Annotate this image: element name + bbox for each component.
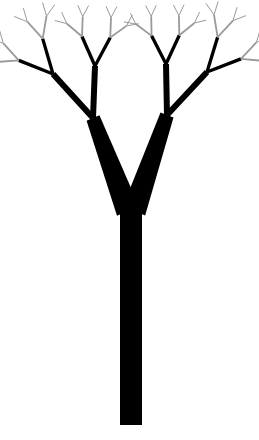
branch	[166, 64, 167, 115]
fractal-tree-figure	[0, 0, 259, 440]
tree-trunk	[120, 205, 142, 425]
branch	[93, 66, 95, 118]
trunk	[120, 205, 142, 425]
branch-tip	[82, 16, 83, 36]
fractal-tree-svg	[0, 0, 259, 440]
branch-tip	[110, 18, 111, 38]
